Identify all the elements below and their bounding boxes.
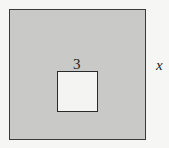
outer-side-label: x: [156, 58, 163, 73]
inner-square: [57, 71, 98, 112]
inner-side-label: 3: [73, 57, 81, 72]
